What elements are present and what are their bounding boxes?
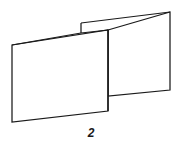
folded-panels-diagram	[0, 0, 182, 147]
left-panel	[12, 30, 108, 122]
figure-container: 2	[0, 0, 182, 147]
right-panel	[108, 12, 170, 96]
figure-caption: 2	[0, 126, 182, 140]
